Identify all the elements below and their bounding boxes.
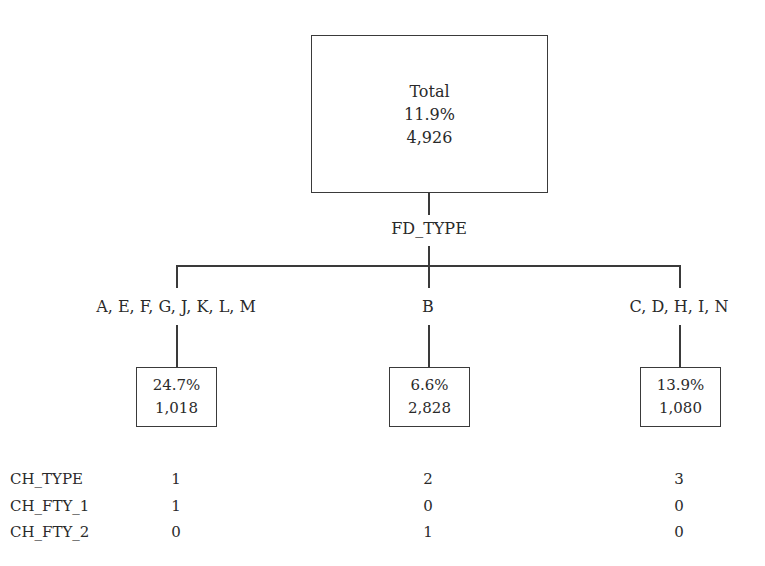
child-1-count: 1,018 xyxy=(155,397,198,420)
connector-branch-1-bottom xyxy=(176,325,178,367)
row-label-ch-fty-2: CH_FTY_2 xyxy=(10,523,89,541)
child-node-1: 24.7% 1,018 xyxy=(136,367,217,427)
branch-3-label: C, D, H, I, N xyxy=(630,297,729,316)
connector-branch-3-top xyxy=(679,265,681,288)
child-node-2: 6.6% 2,828 xyxy=(389,367,470,427)
branch-1-label: A, E, F, G, J, K, L, M xyxy=(96,297,256,316)
root-title: Total xyxy=(409,80,449,103)
connector-branch-1-top xyxy=(176,265,178,288)
cell: 0 xyxy=(171,523,181,541)
cell: 1 xyxy=(171,470,181,488)
child-1-percent: 24.7% xyxy=(153,374,201,397)
child-node-3: 13.9% 1,080 xyxy=(640,367,721,427)
row-label-ch-fty-1: CH_FTY_1 xyxy=(10,497,89,515)
connector-branch-3-bottom xyxy=(679,325,681,367)
split-variable-label: FD_TYPE xyxy=(391,219,467,238)
cell: 1 xyxy=(171,497,181,515)
root-count: 4,926 xyxy=(407,126,453,149)
child-2-count: 2,828 xyxy=(408,397,451,420)
root-node: Total 11.9% 4,926 xyxy=(311,35,548,193)
cell: 0 xyxy=(674,523,684,541)
cell: 3 xyxy=(674,470,684,488)
connector-branch-2-bottom xyxy=(428,325,430,367)
child-2-percent: 6.6% xyxy=(410,374,448,397)
child-3-count: 1,080 xyxy=(659,397,702,420)
cell: 0 xyxy=(674,497,684,515)
cell: 0 xyxy=(423,497,433,515)
cell: 1 xyxy=(423,523,433,541)
connector-split xyxy=(428,246,430,266)
connector-root xyxy=(428,193,430,215)
root-percent: 11.9% xyxy=(404,103,455,126)
branch-2-label: B xyxy=(422,297,434,316)
connector-branch-2-top xyxy=(428,265,430,288)
child-3-percent: 13.9% xyxy=(657,374,705,397)
row-label-ch-type: CH_TYPE xyxy=(10,470,83,488)
cell: 2 xyxy=(423,470,433,488)
